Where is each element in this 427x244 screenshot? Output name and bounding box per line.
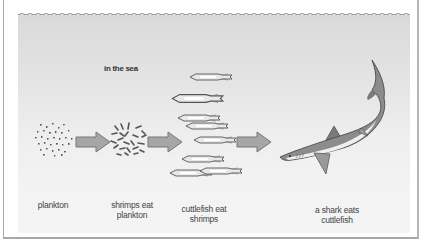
stage-label-line: cuttlefish eat (172, 204, 236, 214)
arrow-icon (75, 131, 111, 153)
stage-label-line: shrimps eat (102, 200, 162, 210)
plankton-icon (34, 121, 74, 159)
stage-label-cuttlefish: cuttlefish eat shrimps (172, 204, 236, 224)
shark-icon (276, 50, 401, 175)
stage-label-shrimps: shrimps eat plankton (102, 200, 162, 220)
stage-label-line: a shark eats (306, 205, 368, 215)
stage-label-line: shrimps (172, 214, 236, 224)
diagram-title: in the sea (104, 64, 138, 73)
stage-label-text: plankton (38, 200, 69, 210)
arrow-icon (236, 131, 272, 153)
cuttlefish-icon (170, 70, 270, 180)
water-surface-line (18, 10, 410, 20)
stage-label-line: plankton (102, 210, 162, 220)
shrimp-icon (109, 122, 149, 158)
stage-label-shark: a shark eats cuttlefish (306, 205, 368, 225)
stage-label-line: cuttlefish (306, 215, 368, 225)
stage-label-plankton: plankton (28, 200, 78, 210)
